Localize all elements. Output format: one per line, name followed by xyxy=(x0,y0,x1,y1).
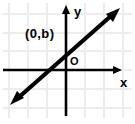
origin-label: O xyxy=(70,56,79,67)
y-axis-label: y xyxy=(74,5,81,18)
x-axis-arrowhead xyxy=(113,66,122,74)
y-axis-arrowhead xyxy=(62,5,70,14)
plot-overlay xyxy=(0,0,135,124)
y-intercept-label: (0,b) xyxy=(25,27,54,40)
x-axis-label: x xyxy=(120,76,127,89)
coordinate-plane-figure: y x O (0,b) xyxy=(0,0,135,124)
x-axis xyxy=(3,66,122,74)
